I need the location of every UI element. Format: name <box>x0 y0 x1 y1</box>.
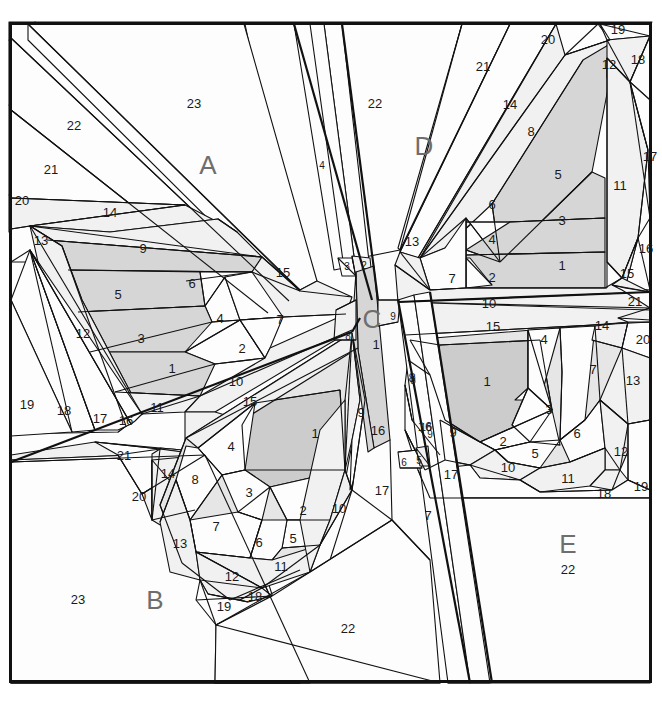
piece-number-E-22: 22 <box>561 562 575 577</box>
piece-number-D-21: 21 <box>476 59 490 74</box>
piece-number-B-6: 6 <box>255 535 262 550</box>
piece-number-D-16: 16 <box>639 241 653 256</box>
piece-number-C-4: 4 <box>319 160 325 171</box>
piece-number-B-11: 11 <box>274 559 288 574</box>
piece-number-E-2: 2 <box>499 434 506 449</box>
piece-number-B-15: 15 <box>243 394 257 409</box>
piece-number-C-9: 9 <box>390 311 396 322</box>
piece-number-A-18: 18 <box>57 403 71 418</box>
piece-number-B-18: 18 <box>248 589 262 604</box>
piece-number-A-15: 15 <box>276 265 290 280</box>
piece-number-B-21: 21 <box>117 448 131 463</box>
piece-number-D-10: 10 <box>482 296 496 311</box>
piece-number-E-14: 14 <box>595 318 609 333</box>
piece-number-C-2: 2 <box>361 260 367 271</box>
piece-number-C-1: 1 <box>372 337 379 352</box>
piece-number-B-19: 19 <box>217 599 231 614</box>
piece-number-A-21: 21 <box>44 162 58 177</box>
piece-number-C-5: 5 <box>416 455 422 466</box>
piece-number-B-13: 13 <box>173 536 187 551</box>
section-label-B: B <box>146 585 163 615</box>
piece-number-E-9: 9 <box>449 425 456 440</box>
piece-number-E-21: 21 <box>628 294 642 309</box>
piece-number-B-12: 12 <box>225 569 239 584</box>
piece-number-D-17: 17 <box>643 149 657 164</box>
piece-number-E-3: 3 <box>545 402 552 417</box>
piece-number-A-16: 16 <box>119 413 133 428</box>
piece-number-E-7: 7 <box>589 362 596 377</box>
piece-number-D-8: 8 <box>527 124 534 139</box>
piece-number-A-11: 11 <box>150 400 164 415</box>
piece-number-E-16: 16 <box>418 419 432 434</box>
piece-number-A-4: 4 <box>216 311 223 326</box>
piece-number-C-7: 7 <box>424 508 431 523</box>
piece-number-A-9: 9 <box>139 241 146 256</box>
piece-number-A-12: 12 <box>76 326 90 341</box>
piece-number-A-3: 3 <box>137 331 144 346</box>
piece-number-E-18: 18 <box>597 486 611 501</box>
section-label-A: A <box>199 150 217 180</box>
piece-number-A-1: 1 <box>168 361 175 376</box>
piece-number-B-5: 5 <box>289 531 296 546</box>
piece-number-D-2: 2 <box>488 270 495 285</box>
piece-number-B-1: 1 <box>311 426 318 441</box>
pattern-detail <box>11 24 651 684</box>
piece-number-E-15: 15 <box>486 319 500 334</box>
piece-number-D-6: 6 <box>488 197 495 212</box>
piece-number-E-1: 1 <box>483 374 490 389</box>
piece-number-C-3: 3 <box>344 261 350 272</box>
piece-number-A-13: 13 <box>34 233 48 248</box>
section-label-E: E <box>559 529 576 559</box>
piece-number-E-19: 19 <box>634 479 648 494</box>
piece-number-A-14: 14 <box>103 205 117 220</box>
piece-number-B-8: 8 <box>191 472 198 487</box>
piece-number-D-11: 11 <box>613 178 627 193</box>
piece-number-E-17: 17 <box>444 467 458 482</box>
piece-number-E-4: 4 <box>540 332 547 347</box>
piece-number-E-6: 6 <box>573 426 580 441</box>
piece-number-D-4: 4 <box>488 232 495 247</box>
piece-number-E-5: 5 <box>531 446 538 461</box>
piece-number-E-12: 12 <box>614 444 628 459</box>
piece-number-D-12: 12 <box>602 57 616 72</box>
piece-number-B-9: 9 <box>357 405 364 420</box>
piece-number-B-7: 7 <box>212 519 219 534</box>
piece-number-A-19: 19 <box>20 397 34 412</box>
piece-number-E-10: 10 <box>501 460 515 475</box>
piece-number-D-15: 15 <box>620 266 634 281</box>
pattern-page: 1234567910111213141516171819202122231234… <box>0 0 662 702</box>
piece-number-C-8: 8 <box>345 331 351 342</box>
piece-number-E-13: 13 <box>626 373 640 388</box>
piece-number-D-7: 7 <box>448 271 455 286</box>
piece-number-A-10: 10 <box>229 374 243 389</box>
piece-number-D-1: 1 <box>558 258 565 273</box>
piece-number-A-7: 7 <box>276 312 283 327</box>
piece-number-E-20: 20 <box>636 332 650 347</box>
piece-number-A-22: 22 <box>67 118 81 133</box>
piece-number-D-19: 19 <box>611 22 625 37</box>
piece-number-D-13: 13 <box>405 234 419 249</box>
piece-number-B-10: 10 <box>332 501 346 516</box>
piece-number-A-5: 5 <box>114 287 121 302</box>
piece-number-D-18: 18 <box>631 52 645 67</box>
piece-number-B-14: 14 <box>161 466 175 481</box>
piece-number-A-2: 2 <box>238 341 245 356</box>
piece-number-D-22: 22 <box>368 96 382 111</box>
piece-number-A-20: 20 <box>15 193 29 208</box>
piece-number-A-17: 17 <box>93 411 107 426</box>
piece-number-D-3: 3 <box>558 213 565 228</box>
piece-number-B-23: 23 <box>71 592 85 607</box>
piece-number-A-6: 6 <box>188 276 195 291</box>
piece-number-B-16: 16 <box>371 423 385 438</box>
piece-number-C-6: 6 <box>401 457 407 468</box>
piece-number-E-11: 11 <box>561 471 575 486</box>
section-label-C: C <box>363 304 382 334</box>
piece-number-B-22: 22 <box>341 621 355 636</box>
piece-number-D-5: 5 <box>554 167 561 182</box>
piece-number-D-14: 14 <box>503 97 517 112</box>
piece-number-B-2: 2 <box>299 503 306 518</box>
piece-number-E-8: 8 <box>408 370 415 385</box>
piece-number-B-4: 4 <box>227 439 234 454</box>
piece-number-B-17: 17 <box>375 483 389 498</box>
piece-number-B-20: 20 <box>132 489 146 504</box>
